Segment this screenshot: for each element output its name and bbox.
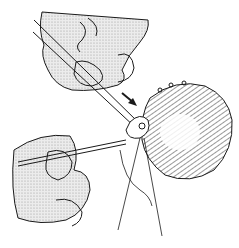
tissue-mass — [142, 81, 233, 179]
lower-hand — [13, 135, 90, 226]
figure-drawing — [0, 0, 239, 248]
illustration — [0, 0, 239, 248]
direction-arrow — [122, 93, 137, 106]
